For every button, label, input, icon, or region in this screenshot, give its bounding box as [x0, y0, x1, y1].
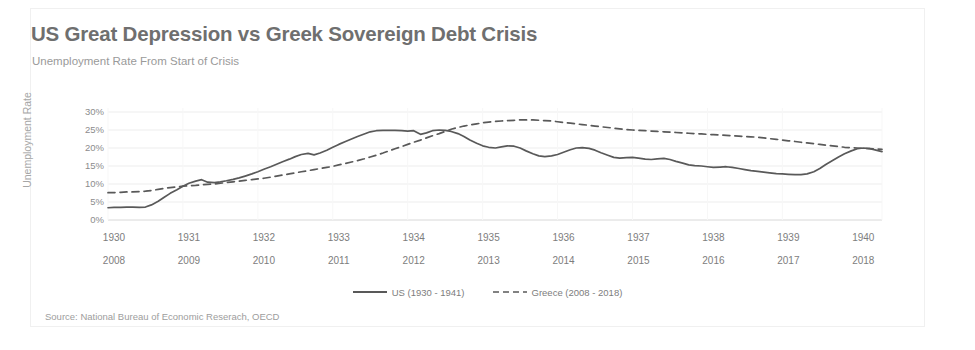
x-axis-tick-greece-2012: 2012	[384, 255, 444, 266]
x-axis-tick-greece-2013: 2013	[459, 255, 519, 266]
x-axis-tick-greece-2018: 2018	[833, 255, 893, 266]
chart-legend: US (1930 - 1941)Greece (2008 - 2018)	[0, 286, 975, 298]
gridlines	[108, 108, 882, 220]
x-axis-tick-us-1932: 1932	[234, 232, 294, 243]
legend-item-greece[interactable]: Greece (2008 - 2018)	[493, 286, 623, 298]
x-axis-tick-us-1939: 1939	[758, 232, 818, 243]
series-line-us	[108, 130, 882, 208]
x-axis-tick-greece-2010: 2010	[234, 255, 294, 266]
x-axis-tick-us-1935: 1935	[459, 232, 519, 243]
x-axis-tick-us-1936: 1936	[534, 232, 594, 243]
x-axis-tick-greece-2016: 2016	[683, 255, 743, 266]
x-axis-tick-greece-2009: 2009	[159, 255, 219, 266]
x-axis-tick-us-1940: 1940	[833, 232, 893, 243]
x-axis-tick-greece-2017: 2017	[758, 255, 818, 266]
x-axis-tick-greece-2011: 2011	[309, 255, 369, 266]
source-note: Source: National Bureau of Economic Rese…	[45, 311, 279, 322]
x-axis-tick-us-1934: 1934	[384, 232, 444, 243]
legend-item-us[interactable]: US (1930 - 1941)	[353, 286, 465, 298]
x-axis-tick-us-1937: 1937	[608, 232, 668, 243]
x-axis-row-us-years: 1930193119321933193419351936193719381939…	[0, 232, 975, 248]
legend-swatch-solid-icon	[353, 288, 387, 296]
x-axis-tick-us-1933: 1933	[309, 232, 369, 243]
x-axis-tick-greece-2014: 2014	[534, 255, 594, 266]
legend-label: Greece (2008 - 2018)	[532, 287, 623, 298]
x-axis-tick-greece-2008: 2008	[84, 255, 144, 266]
x-axis-tick-greece-2015: 2015	[608, 255, 668, 266]
x-axis-tick-us-1931: 1931	[159, 232, 219, 243]
legend-swatch-dashed-icon	[493, 288, 527, 296]
x-axis-tick-us-1930: 1930	[84, 232, 144, 243]
x-axis-row-greece-years: 2008200920102011201220132014201520162017…	[0, 255, 975, 271]
x-axis-tick-us-1938: 1938	[683, 232, 743, 243]
legend-label: US (1930 - 1941)	[392, 287, 465, 298]
data-series-layer	[108, 120, 882, 208]
